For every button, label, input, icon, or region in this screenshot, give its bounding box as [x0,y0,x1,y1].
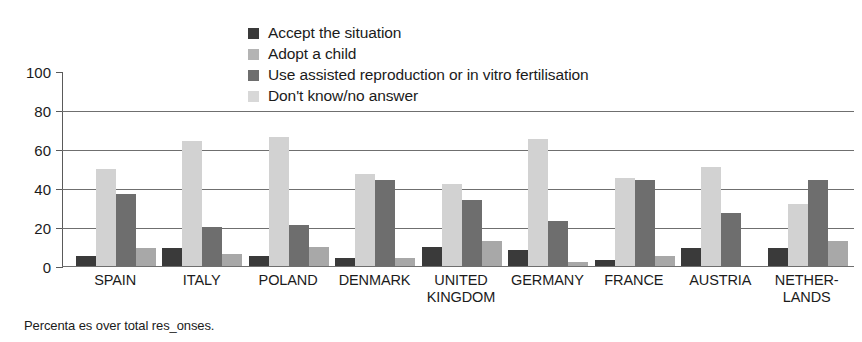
bar [335,258,355,266]
bar [568,262,588,266]
legend-item: Adopt a child [248,45,589,63]
bar-group [335,72,421,266]
x-axis-label-line2: LANDS [768,289,846,306]
bar [788,204,808,266]
bar-group [508,72,594,266]
bar [508,250,528,266]
y-axis-tick-label: 100 [26,64,51,81]
bar-group [249,72,335,266]
x-axis [62,266,854,267]
bar [375,180,395,266]
bar [136,248,156,266]
bar-group [681,72,767,266]
bar [615,178,635,266]
x-axis-label: SPAIN [76,272,162,314]
bar [482,241,502,266]
bar [595,260,615,266]
bar [462,200,482,266]
x-axis-label-line1: POLAND [259,272,318,288]
bar [635,180,655,266]
legend-swatch-icon [248,49,259,60]
x-axis-label: POLAND [249,272,335,314]
y-axis-tick-label: 60 [34,142,51,159]
bar [422,247,442,267]
bar [289,225,309,266]
x-axis-label-line1: ITALY [183,272,221,288]
bar-group [595,72,681,266]
x-axis-label: UNITEDKINGDOM [422,272,508,314]
y-axis-tick-label: 40 [34,181,51,198]
x-axis-label-line1: FRANCE [604,272,663,288]
bar [808,180,828,266]
bar-group [768,72,854,266]
bar [162,248,182,266]
x-axis-label-line1: SPAIN [94,272,136,288]
bar [721,213,741,266]
bar [222,254,242,266]
x-axis-label: NETHER-LANDS [768,272,854,314]
bar [355,174,375,266]
chart-footnote: Percenta es over total res_onses. [24,318,214,333]
bar [249,256,269,266]
bar [828,241,848,266]
bar [442,184,462,266]
bar [528,139,548,266]
bar [548,221,568,266]
bar [76,256,96,266]
y-axis-tick-label: 0 [43,259,51,276]
y-axis-tick [56,267,62,268]
x-axis-labels: SPAINITALYPOLANDDENMARKUNITEDKINGDOMGERM… [62,272,854,314]
x-axis-label-line1: UNITED [434,272,487,288]
y-axis-tick-label: 80 [34,103,51,120]
bar [309,247,329,267]
y-axis-tick-label: 20 [34,220,51,237]
x-axis-label-line1: DENMARK [339,272,411,288]
bar-group [162,72,248,266]
legend-label: Adopt a child [268,45,356,63]
plot-area: 020406080100 [62,72,854,267]
bar [116,194,136,266]
bar [96,169,116,267]
x-axis-label-line1: AUSTRIA [689,272,751,288]
bar [182,141,202,266]
legend-item: Accept the situation [248,24,589,42]
bar [395,258,415,266]
x-axis-label-line2: KINGDOM [422,289,500,306]
legend-label: Accept the situation [268,24,401,42]
x-axis-label: DENMARK [335,272,421,314]
bar-group [422,72,508,266]
x-axis-label: GERMANY [508,272,594,314]
bar [768,248,788,266]
bar [202,227,222,266]
bar [681,248,701,266]
bar-groups [62,72,854,266]
legend-swatch-icon [248,28,259,39]
x-axis-label-line1: GERMANY [511,272,584,288]
bar-group [76,72,162,266]
bar [655,256,675,266]
x-axis-label: AUSTRIA [681,272,767,314]
bar [701,167,721,266]
bar [269,137,289,266]
x-axis-label-line1: NETHER- [775,272,839,288]
x-axis-label: ITALY [162,272,248,314]
x-axis-label: FRANCE [595,272,681,314]
bar-chart: Accept the situationAdopt a childUse ass… [0,0,862,342]
